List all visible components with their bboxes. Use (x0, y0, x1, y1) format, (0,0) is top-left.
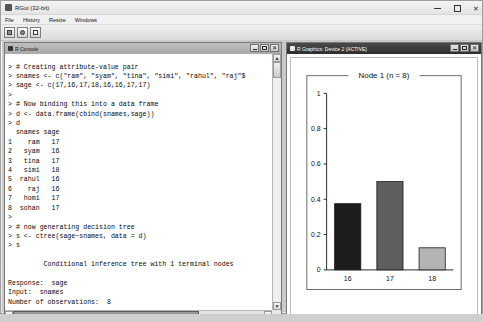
x-axis-ticks: 161718 (344, 275, 436, 282)
mdi-client-area: R Console ✕ > # Creating attribute-value… (2, 40, 481, 312)
plot-canvas: Node 1 (n = 8) 00.20.40.60.81 161718 (290, 57, 478, 316)
node-label-text: Node 1 (n = 8) (359, 71, 410, 80)
menu-item-windows[interactable]: Windows (75, 17, 97, 23)
menu-item-resize[interactable]: Resize (49, 17, 66, 23)
console-vertical-scrollbar[interactable]: ▲ ▼ (272, 54, 281, 310)
r-console-window: R Console ✕ > # Creating attribute-value… (4, 42, 282, 320)
close-button[interactable]: ✕ (471, 3, 480, 12)
window-title: RGui (32-bit) (15, 5, 49, 11)
console-close-button[interactable]: ✕ (270, 44, 279, 52)
y-axis: 00.20.40.60.81 (311, 90, 327, 274)
desktop: RGui (32-bit) ✕ File History Resize Wind… (0, 0, 483, 322)
rgui-main-window: RGui (32-bit) ✕ File History Resize Wind… (0, 0, 483, 314)
y-tick-label: 1 (317, 90, 321, 97)
console-icon (8, 46, 13, 51)
x-axis: 161718 (327, 270, 454, 282)
r-graphics-window: R Graphics: Device 2 (ACTIVE) ✕ (286, 42, 482, 320)
toolbar (1, 25, 482, 41)
graphics-maximize-button[interactable] (460, 44, 469, 52)
main-titlebar: RGui (32-bit) ✕ (1, 1, 482, 15)
x-tick-label: 16 (344, 275, 352, 282)
console-minimize-button[interactable] (250, 44, 259, 52)
copy-paste-icon[interactable] (30, 27, 41, 38)
menu-item-file[interactable]: File (5, 17, 14, 23)
x-tick-label: 18 (428, 275, 436, 282)
console-output: > # Creating attribute-value pair > snam… (8, 63, 269, 308)
x-tick-label: 17 (386, 275, 394, 282)
minimize-button[interactable] (433, 3, 442, 12)
plot-area: Node 1 (n = 8) 00.20.40.60.81 161718 (287, 54, 481, 319)
bar-18 (419, 248, 445, 270)
graphics-minimize-button[interactable] (450, 44, 459, 52)
y-tick-label: 0 (317, 266, 321, 273)
maximize-button[interactable] (452, 3, 461, 12)
desktop-background-strip (0, 314, 483, 322)
y-axis-ticks: 00.20.40.60.81 (311, 90, 327, 274)
graphics-icon (290, 46, 295, 51)
console-title: R Console (15, 46, 38, 52)
bar-16 (335, 204, 361, 270)
ctree-node-barplot: Node 1 (n = 8) 00.20.40.60.81 161718 (291, 58, 477, 315)
vscroll-thumb[interactable] (273, 62, 281, 78)
console-body[interactable]: > # Creating attribute-value pair > snam… (5, 54, 281, 319)
menu-item-history[interactable]: History (23, 17, 40, 23)
console-maximize-button[interactable] (260, 44, 269, 52)
window-controls: ✕ (433, 1, 480, 14)
menubar: File History Resize Windows (1, 15, 482, 25)
graphics-title: R Graphics: Device 2 (ACTIVE) (297, 46, 367, 52)
console-window-controls: ✕ (250, 44, 279, 52)
y-tick-label: 0.8 (311, 125, 321, 132)
open-script-icon[interactable] (4, 27, 15, 38)
load-workspace-icon[interactable] (17, 27, 28, 38)
bar-17 (377, 182, 403, 270)
y-tick-label: 0.6 (311, 161, 321, 168)
bar-series (335, 182, 446, 270)
graphics-window-controls: ✕ (450, 44, 479, 52)
y-tick-label: 0.4 (311, 196, 321, 203)
r-logo-icon (5, 4, 12, 11)
y-tick-label: 0.2 (311, 231, 321, 238)
scroll-down-icon[interactable]: ▼ (273, 302, 281, 310)
scroll-up-icon[interactable]: ▲ (273, 54, 281, 62)
graphics-close-button[interactable]: ✕ (470, 44, 479, 52)
